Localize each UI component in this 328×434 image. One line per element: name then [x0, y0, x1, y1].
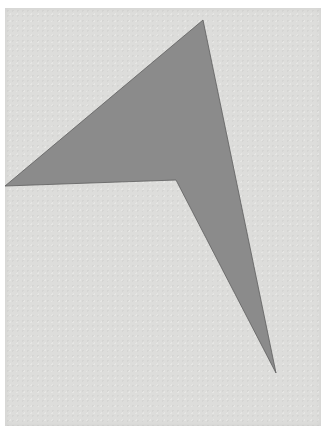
abstract-shape [0, 0, 328, 434]
gray-angular-shape [5, 20, 276, 373]
artwork-canvas [0, 0, 328, 434]
